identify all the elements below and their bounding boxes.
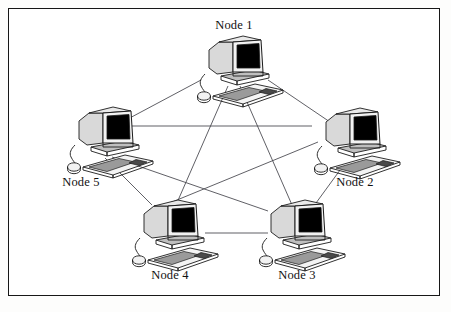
link-node1-node4 xyxy=(176,86,228,205)
link-node1-node2 xyxy=(268,80,330,122)
computer-icon xyxy=(133,200,219,271)
computer-icon xyxy=(260,200,346,271)
computer-icon xyxy=(315,108,401,179)
node-node4[interactable] xyxy=(133,200,219,271)
node-label-node2: Node 2 xyxy=(336,175,374,189)
link-node1-node3 xyxy=(240,86,292,205)
node-label-node1: Node 1 xyxy=(215,18,253,32)
node-label-node5: Node 5 xyxy=(62,175,100,189)
link-node2-node4 xyxy=(160,142,318,207)
node-node5[interactable] xyxy=(68,107,154,178)
link-node1-node5 xyxy=(126,80,201,120)
network-topology-figure: Node 1 Node 2 Node 3 Node 4 Node 5 xyxy=(0,0,451,312)
node-label-node4: Node 4 xyxy=(151,268,189,282)
node-node1[interactable] xyxy=(198,36,284,107)
topology-canvas: Node 1 Node 2 Node 3 Node 4 Node 5 xyxy=(0,0,451,312)
node-node3[interactable] xyxy=(260,200,346,271)
computer-icon xyxy=(198,36,284,107)
node-label-node3: Node 3 xyxy=(278,268,316,282)
node-node2[interactable] xyxy=(315,108,401,179)
computer-icon xyxy=(68,107,154,178)
